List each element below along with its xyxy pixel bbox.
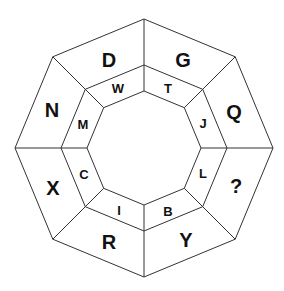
outer-letter: N xyxy=(45,99,59,121)
outer-letter: X xyxy=(46,177,60,199)
inner-letter: C xyxy=(79,167,89,182)
octagon-rings xyxy=(15,19,273,277)
inner-letter: L xyxy=(199,166,207,181)
inner-letter: J xyxy=(199,116,206,131)
inner-letter: I xyxy=(117,203,121,218)
outer-letter: G xyxy=(175,49,191,71)
inner-letter: B xyxy=(163,204,172,219)
outer-letter: R xyxy=(102,231,117,253)
octagon-letter-puzzle: D G Q ? Y R X N W T J L B I C M xyxy=(0,0,284,291)
inner-letter: M xyxy=(78,117,89,132)
spoke-divider xyxy=(53,188,104,239)
inner-letter: T xyxy=(164,81,172,96)
missing-letter-question-mark: ? xyxy=(230,175,242,197)
outer-letter: Y xyxy=(179,229,193,251)
inner-octagon xyxy=(87,91,201,205)
outer-letter: D xyxy=(102,49,116,71)
inner-letter: W xyxy=(112,81,125,96)
spoke-divider xyxy=(53,57,104,108)
outer-letter: Q xyxy=(226,101,242,123)
